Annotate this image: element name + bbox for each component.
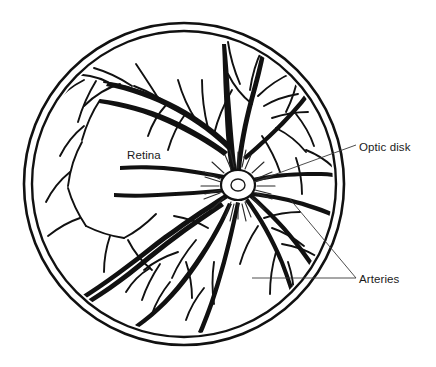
retinal-fundus-figure: Retina Optic disk Arteries	[0, 0, 436, 367]
eyeball-inner-ring	[32, 31, 336, 337]
twig-ur-3	[228, 74, 252, 104]
twig-l-4	[46, 172, 70, 202]
twig-ul-10	[202, 80, 208, 128]
twig-l-8	[104, 236, 110, 272]
inferior-arcade	[70, 194, 334, 334]
twig-l-6	[48, 218, 80, 236]
twig-l-9	[124, 214, 156, 238]
twig-ul-7	[78, 81, 96, 122]
fundus-illustration	[0, 0, 436, 367]
twig-ur-6	[296, 114, 314, 146]
eyeball-outline-group	[24, 23, 344, 345]
twig-ll-6	[213, 262, 215, 304]
twig-l-5	[68, 188, 86, 226]
twig-ur-1	[258, 72, 294, 96]
optic-cup	[231, 179, 245, 191]
label-retina: Retina	[127, 149, 161, 162]
label-arteries: Arteries	[359, 273, 399, 286]
twig-ll-8	[186, 288, 204, 320]
twig-ur-11	[306, 150, 334, 168]
vessel-superior-left-arcade	[106, 82, 232, 150]
twig-lr-6	[240, 226, 258, 264]
twig-l-7	[86, 226, 124, 238]
twig-l-3	[68, 142, 82, 186]
twig-l-2	[60, 126, 84, 156]
vessel-temporal-upper	[252, 172, 334, 182]
twig-ur-7	[276, 128, 306, 152]
twig-ur-8	[262, 136, 280, 172]
vessel-nasal-upper	[120, 165, 230, 180]
twig-lr-5	[270, 252, 276, 294]
twigs-left	[46, 100, 156, 272]
eyeball-outer-ring	[24, 23, 344, 345]
label-optic-disk: Optic disk	[359, 141, 411, 154]
